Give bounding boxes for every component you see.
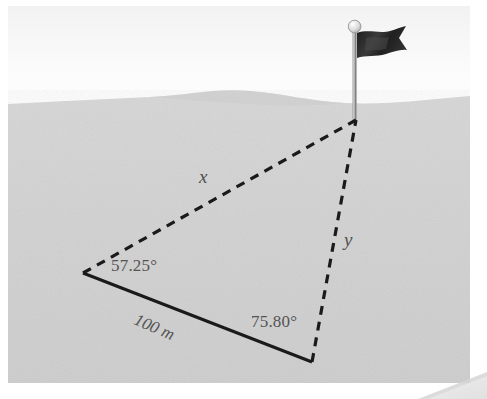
diagram-canvas (0, 0, 487, 399)
angle-label-left: 57.25° (111, 256, 157, 276)
flag-fold-highlight (365, 37, 389, 51)
side-label-x: x (199, 166, 207, 188)
flag-pole (353, 30, 357, 122)
angle-label-right: 75.80° (251, 312, 297, 332)
ground-region (8, 90, 470, 383)
pole-finial-ball (348, 20, 361, 33)
side-label-y: y (344, 229, 352, 251)
figure-root: 57.25° 75.80° x y 100 m (0, 0, 487, 399)
